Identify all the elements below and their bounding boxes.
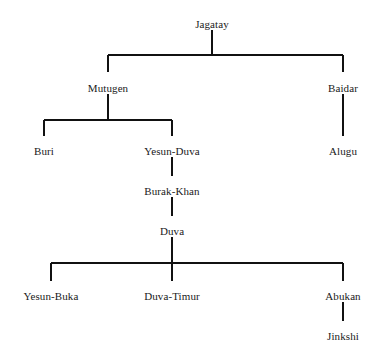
tree-node-baidar: Baidar [328, 82, 358, 95]
tree-node-yesun-buka: Yesun-Buka [24, 290, 79, 303]
tree-node-duva: Duva [160, 225, 184, 238]
tree-connector-lines [0, 0, 378, 360]
tree-node-jagatay: Jagatay [195, 18, 229, 31]
tree-node-alugu: Alugu [329, 145, 357, 158]
tree-node-buri: Buri [34, 145, 54, 158]
tree-node-yesun-duva: Yesun-Duva [144, 145, 200, 158]
tree-node-jinkshi: Jinkshi [327, 330, 359, 343]
tree-node-abukan: Abukan [325, 290, 360, 303]
family-tree-diagram: JagatayMutugenBaidarBuriYesun-DuvaAluguB… [0, 0, 378, 360]
tree-node-duva-timur: Duva-Timur [144, 290, 200, 303]
tree-node-mutugen: Mutugen [88, 82, 128, 95]
tree-node-burak-khan: Burak-Khan [144, 185, 199, 198]
